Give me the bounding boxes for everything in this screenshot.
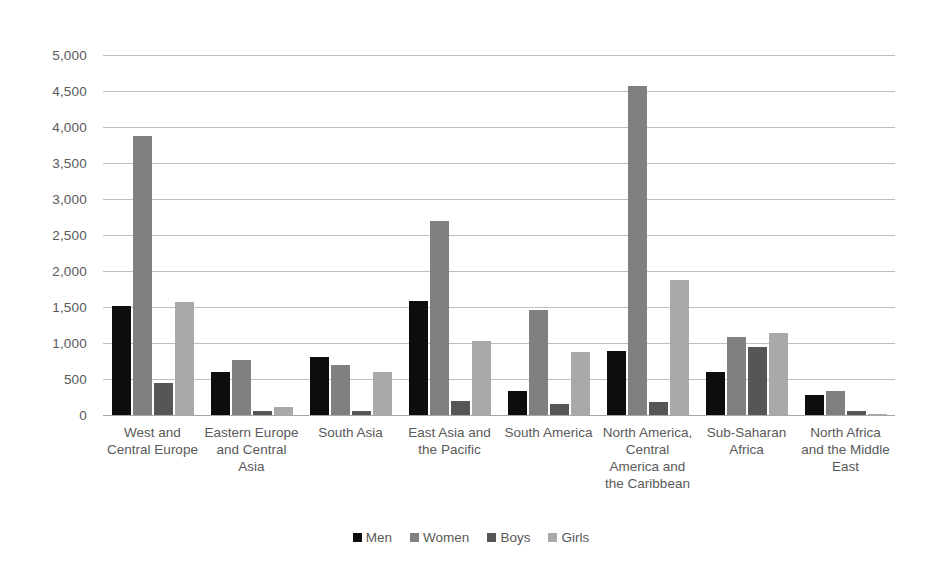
bar-slot	[826, 55, 845, 415]
bar-boys[interactable]	[649, 402, 668, 415]
bar-slot	[331, 55, 350, 415]
bar-slot	[352, 55, 371, 415]
bar-boys[interactable]	[550, 404, 569, 415]
bar-men[interactable]	[607, 351, 626, 415]
bar-men[interactable]	[112, 306, 131, 415]
y-axis-tick-label: 2,000	[52, 264, 87, 279]
bar-slot	[670, 55, 689, 415]
bar-group	[400, 55, 499, 415]
bar-slot	[769, 55, 788, 415]
bar-girls[interactable]	[670, 280, 689, 415]
y-axis-tick-label: 1,500	[52, 300, 87, 315]
legend-item-women[interactable]: Women	[410, 530, 469, 545]
y-axis-tick-label: 0	[79, 408, 87, 423]
legend-label: Boys	[500, 530, 530, 545]
bar-groups	[103, 55, 895, 415]
bar-men[interactable]	[310, 357, 329, 415]
bar-women[interactable]	[331, 365, 350, 415]
bar-women[interactable]	[430, 221, 449, 415]
bar-slot	[253, 55, 272, 415]
bar-slot	[154, 55, 173, 415]
bar-men[interactable]	[508, 391, 527, 415]
bar-girls[interactable]	[373, 372, 392, 415]
bar-chart: 5,0004,5004,0003,5003,0002,5002,0001,500…	[0, 0, 942, 570]
y-axis-tick-labels: 5,0004,5004,0003,5003,0002,5002,0001,500…	[0, 55, 95, 415]
bar-boys[interactable]	[748, 347, 767, 415]
bar-slot	[409, 55, 428, 415]
legend-label: Men	[366, 530, 392, 545]
bar-group	[301, 55, 400, 415]
bar-slot	[133, 55, 152, 415]
y-axis-tick-label: 3,000	[52, 192, 87, 207]
bar-slot	[706, 55, 725, 415]
bar-men[interactable]	[409, 301, 428, 415]
legend-item-boys[interactable]: Boys	[487, 530, 530, 545]
x-axis-category-label: Sub-Saharan Africa	[697, 424, 796, 492]
legend-swatch-icon	[548, 533, 557, 542]
bar-slot	[748, 55, 767, 415]
x-axis-category-label: South Asia	[301, 424, 400, 492]
bar-boys[interactable]	[154, 383, 173, 415]
bar-slot	[649, 55, 668, 415]
x-axis-category-label: Eastern Europe and Central Asia	[202, 424, 301, 492]
bar-slot	[571, 55, 590, 415]
y-axis-tick-label: 1,000	[52, 336, 87, 351]
bar-women[interactable]	[133, 136, 152, 415]
bar-girls[interactable]	[571, 352, 590, 415]
legend-swatch-icon	[353, 533, 362, 542]
bar-slot	[508, 55, 527, 415]
bar-slot	[232, 55, 251, 415]
bar-group	[697, 55, 796, 415]
bar-group	[499, 55, 598, 415]
x-axis-category-label: North Africa and the Middle East	[796, 424, 895, 492]
bar-boys[interactable]	[451, 401, 470, 415]
bar-girls[interactable]	[274, 407, 293, 415]
bar-group	[598, 55, 697, 415]
y-axis-tick-label: 2,500	[52, 228, 87, 243]
legend-label: Girls	[561, 530, 589, 545]
bar-girls[interactable]	[868, 414, 887, 415]
bar-men[interactable]	[805, 395, 824, 415]
bar-slot	[727, 55, 746, 415]
bar-women[interactable]	[727, 337, 746, 415]
bar-slot	[472, 55, 491, 415]
bar-slot	[628, 55, 647, 415]
bar-boys[interactable]	[352, 411, 371, 415]
legend-item-girls[interactable]: Girls	[548, 530, 589, 545]
y-axis-tick-label: 4,500	[52, 84, 87, 99]
bar-slot	[847, 55, 866, 415]
legend-swatch-icon	[410, 533, 419, 542]
legend-label: Women	[423, 530, 469, 545]
y-axis-tick-label: 5,000	[52, 48, 87, 63]
bar-women[interactable]	[529, 310, 548, 415]
bar-slot	[550, 55, 569, 415]
bar-girls[interactable]	[175, 302, 194, 415]
bar-women[interactable]	[628, 86, 647, 415]
y-axis-tick-label: 3,500	[52, 156, 87, 171]
x-axis-category-label: South America	[499, 424, 598, 492]
bar-slot	[274, 55, 293, 415]
y-axis-tick-label: 4,000	[52, 120, 87, 135]
bar-girls[interactable]	[769, 333, 788, 415]
bar-slot	[451, 55, 470, 415]
x-axis-category-label: West and Central Europe	[103, 424, 202, 492]
bar-boys[interactable]	[253, 411, 272, 415]
x-axis-category-labels: West and Central EuropeEastern Europe an…	[103, 424, 895, 492]
bar-men[interactable]	[706, 372, 725, 415]
bar-men[interactable]	[211, 372, 230, 415]
bar-slot	[607, 55, 626, 415]
bar-slot	[529, 55, 548, 415]
bar-slot	[211, 55, 230, 415]
legend-swatch-icon	[487, 533, 496, 542]
chart-legend: MenWomenBoysGirls	[0, 530, 942, 545]
bar-group	[202, 55, 301, 415]
bar-women[interactable]	[826, 391, 845, 415]
x-axis-category-label: North America, Central America and the C…	[598, 424, 697, 492]
x-axis-category-label: East Asia and the Pacific	[400, 424, 499, 492]
bar-boys[interactable]	[847, 411, 866, 415]
bar-women[interactable]	[232, 360, 251, 415]
bar-girls[interactable]	[472, 341, 491, 415]
bar-slot	[805, 55, 824, 415]
bar-group	[103, 55, 202, 415]
legend-item-men[interactable]: Men	[353, 530, 392, 545]
